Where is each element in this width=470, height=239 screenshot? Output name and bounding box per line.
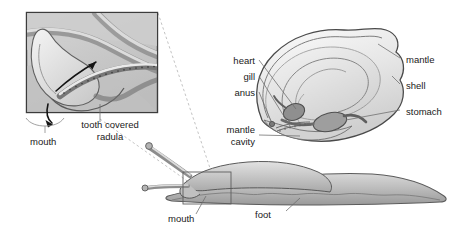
label-tooth-covered-radula-line2: radula [62, 131, 158, 143]
label-mouth-body: mouth [168, 213, 194, 225]
label-gill: gill [185, 71, 255, 83]
label-heart: heart [185, 55, 255, 67]
label-anus: anus [185, 87, 255, 99]
label-foot: foot [255, 209, 271, 221]
figure-canvas: heart gill anus mantle cavity mantle she… [0, 0, 470, 239]
label-mantle-cavity-line1: mantle [185, 124, 255, 136]
label-shell: shell [406, 80, 426, 92]
inset-mouth-brace [26, 118, 64, 133]
label-tooth-covered-radula-line1: tooth covered [62, 119, 158, 131]
inset-artwork [27, 13, 158, 113]
label-stomach: stomach [406, 106, 442, 118]
label-mouth-inset: mouth [30, 136, 56, 148]
label-mantle: mantle [406, 54, 435, 66]
label-mantle-cavity-line2: cavity [185, 136, 255, 148]
